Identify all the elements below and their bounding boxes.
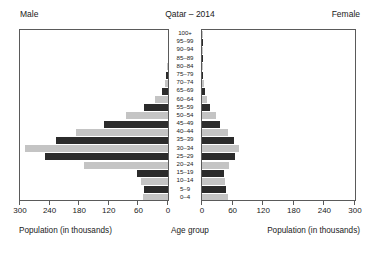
chart-title: Qatar – 2014 [0, 9, 380, 19]
female-bar [202, 96, 207, 103]
male-bar [56, 137, 168, 144]
axis-tick-label: 120 [102, 206, 115, 215]
female-bar-row [202, 96, 355, 104]
female-bar [202, 153, 235, 160]
male-bar-row [20, 71, 168, 79]
male-bar [137, 170, 168, 177]
male-bar-row [20, 104, 168, 112]
female-axis-title: Population (in thousands) [267, 226, 360, 235]
female-bar [202, 112, 216, 119]
male-bar [162, 88, 168, 95]
age-group-label: 80–84 [169, 62, 201, 70]
female-bar [202, 145, 239, 152]
female-bar [202, 137, 234, 144]
female-bar [202, 72, 203, 79]
male-bar-row [20, 161, 168, 169]
axis-tick-label: 60 [134, 206, 143, 215]
male-bar-row [20, 153, 168, 161]
female-bar-row [202, 79, 355, 87]
age-group-label: 30–34 [169, 144, 201, 152]
female-bar-row [202, 104, 355, 112]
female-bar-row [202, 112, 355, 120]
axis-tick [232, 201, 233, 205]
female-bar-row [202, 63, 355, 71]
female-bar [202, 104, 210, 111]
female-bar-row [202, 87, 355, 95]
axis-tick [354, 201, 355, 205]
female-bar-row [202, 169, 355, 177]
axis-tick [201, 201, 202, 205]
male-bar-row [20, 186, 168, 194]
male-bar-row [20, 63, 168, 71]
female-side-label: Female [332, 9, 360, 19]
male-bar [166, 72, 168, 79]
female-bar-rows [202, 30, 355, 200]
axis-tick [108, 201, 109, 205]
female-bar-row [202, 46, 355, 54]
age-group-label: 90–94 [169, 45, 201, 53]
male-bar [126, 112, 168, 119]
axis-tick [262, 201, 263, 205]
age-group-label: 25–29 [169, 152, 201, 160]
male-bar [84, 162, 168, 169]
age-group-label: 55–59 [169, 103, 201, 111]
female-bar [202, 194, 228, 201]
female-bar-row [202, 55, 355, 63]
female-bar-row [202, 38, 355, 46]
female-bar [202, 88, 205, 95]
male-bar [155, 96, 168, 103]
axis-tick [323, 201, 324, 205]
age-group-axis: 100+95–9990–9485–8980–8475–7970–7465–696… [169, 29, 201, 201]
female-bar [202, 186, 226, 193]
female-bar-row [202, 30, 355, 38]
axis-tick-label: 120 [257, 206, 270, 215]
female-bar-row [202, 177, 355, 185]
age-group-label: 50–54 [169, 111, 201, 119]
age-group-label: 45–49 [169, 119, 201, 127]
axis-tick-label: 0 [200, 206, 204, 215]
female-bar-row [202, 153, 355, 161]
male-bar-row [20, 38, 168, 46]
population-pyramid-chart: Male Qatar – 2014 Female 100+95–9990–948… [0, 0, 380, 253]
axis-tick [49, 201, 50, 205]
age-group-label: 85–89 [169, 54, 201, 62]
male-bar-row [20, 194, 168, 201]
age-group-label: 5–9 [169, 185, 201, 193]
axis-tick-label: 180 [73, 206, 86, 215]
female-bar [202, 121, 220, 128]
male-bar [76, 129, 168, 136]
female-bar [202, 162, 229, 169]
female-bar-row [202, 136, 355, 144]
axis-tick [293, 201, 294, 205]
age-group-label: 15–19 [169, 168, 201, 176]
age-group-label: 100+ [169, 29, 201, 37]
male-axis-ticks [19, 201, 169, 206]
female-bar [202, 170, 224, 177]
axis-tick [19, 201, 20, 205]
age-group-label: 20–24 [169, 160, 201, 168]
male-bar-row [20, 120, 168, 128]
male-bar-row [20, 96, 168, 104]
age-group-label: 60–64 [169, 95, 201, 103]
female-bar-row [202, 161, 355, 169]
axis-tick-label: 300 [348, 206, 361, 215]
male-bar-row [20, 46, 168, 54]
male-bar-rows [20, 30, 168, 200]
axis-tick [78, 201, 79, 205]
axis-tick-label: 60 [228, 206, 237, 215]
male-bar-row [20, 136, 168, 144]
male-bar-row [20, 55, 168, 63]
axis-tick [137, 201, 138, 205]
male-bar-row [20, 112, 168, 120]
female-bar-row [202, 71, 355, 79]
female-bar-row [202, 145, 355, 153]
female-bar-row [202, 128, 355, 136]
age-group-label: 75–79 [169, 70, 201, 78]
male-bar [104, 121, 168, 128]
female-bar [202, 178, 225, 185]
axis-tick-label: 240 [43, 206, 56, 215]
female-bar [202, 80, 204, 87]
male-bar [143, 194, 168, 201]
male-bar-row [20, 145, 168, 153]
male-bar [45, 153, 168, 160]
